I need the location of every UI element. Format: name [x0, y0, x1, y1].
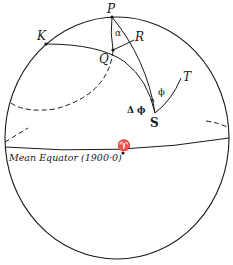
- dashed-circle-qk: [11, 51, 113, 110]
- sphere-outline: [5, 17, 229, 259]
- label-k: K: [36, 29, 47, 43]
- mean-equator-back-left: [5, 128, 28, 142]
- point-q-dot: [111, 48, 114, 51]
- label-s: S: [150, 116, 159, 130]
- label-q: Q: [99, 52, 109, 66]
- label-mean-equator: Mean Equator (1900·0): [8, 152, 122, 163]
- label-alpha: α: [115, 28, 121, 38]
- mean-equator-back-right: [206, 121, 229, 128]
- celestial-sphere-diagram: P K Q R T S α ϕ Δ ϕ ♈ Mean Equator (1900…: [0, 0, 233, 265]
- label-t: T: [183, 70, 192, 84]
- label-delta-phi: Δ ϕ: [127, 105, 146, 115]
- label-phi: ϕ: [158, 86, 165, 97]
- label-vernal-equinox: ♈: [117, 139, 131, 152]
- arc-p-q: [111, 17, 113, 50]
- label-p: P: [106, 2, 116, 16]
- label-r: R: [134, 30, 144, 44]
